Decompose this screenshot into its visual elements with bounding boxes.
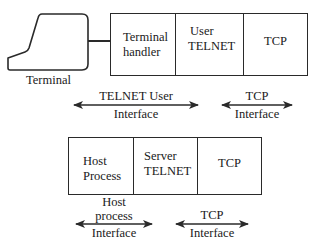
host-process-interface-line1: Host	[76, 195, 152, 210]
top-tcp-interface-line2: Interface	[222, 107, 292, 122]
terminal-handler-line2: handler	[123, 45, 160, 60]
terminal-icon	[8, 14, 88, 70]
host-process-interface-line2: process	[76, 209, 152, 224]
bottom-tcp-layer: TCP	[197, 138, 261, 194]
bottom-tcp-interface-line2: Interface	[176, 226, 248, 241]
terminal-handler-line1: Terminal	[123, 30, 168, 45]
host-process-interface-line3: Interface	[76, 226, 152, 241]
top-tcp-interface-line1: TCP	[222, 89, 292, 104]
user-telnet-line1: User	[190, 24, 214, 39]
user-side-stack: Terminal handler User TELNET TCP	[110, 13, 308, 76]
host-process-line1: Host	[83, 154, 107, 169]
telnet-user-interface-line1: TELNET User	[84, 89, 188, 104]
telnet-user-interface-line2: Interface	[84, 107, 188, 122]
bottom-tcp-label: TCP	[198, 156, 261, 171]
user-telnet-line2: TELNET	[188, 39, 235, 54]
host-process-layer: Host Process	[69, 138, 133, 194]
server-telnet-line2: TELNET	[144, 164, 191, 179]
top-tcp-layer: TCP	[243, 14, 307, 75]
terminal-label: Terminal	[26, 73, 71, 88]
server-telnet-line1: Server	[144, 149, 177, 164]
server-side-stack: Host Process Server TELNET TCP	[68, 137, 262, 195]
terminal-handler-layer: Terminal handler	[111, 14, 175, 75]
host-process-line2: Process	[83, 169, 121, 184]
bottom-tcp-interface-line1: TCP	[176, 208, 248, 223]
top-tcp-label: TCP	[244, 34, 307, 49]
user-telnet-layer: User TELNET	[175, 14, 243, 75]
server-telnet-layer: Server TELNET	[133, 138, 197, 194]
